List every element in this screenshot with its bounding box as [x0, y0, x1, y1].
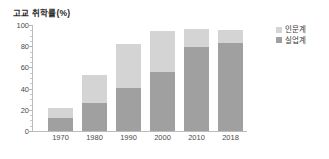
y-tick-minor-5 [30, 126, 33, 127]
y-tick-minor-45 [30, 83, 33, 84]
legend-item-vocational[interactable]: 실업계 [276, 37, 328, 45]
x-axis-line [32, 131, 247, 132]
bar-segment-vocational-1990[interactable] [116, 88, 141, 131]
y-tick-label-60: 60 [3, 64, 29, 72]
legend-swatch-academic-icon [276, 27, 282, 33]
y-tick-major-80 [28, 46, 32, 47]
x-tick-label-2010: 2010 [180, 134, 214, 142]
y-tick-minor-15 [30, 115, 33, 116]
y-tick-major-20 [28, 110, 32, 111]
legend-item-academic[interactable]: 인문계 [276, 26, 328, 34]
bar-segment-academic-1990[interactable] [116, 44, 141, 87]
y-tick-minor-70 [30, 57, 33, 58]
y-tick-major-40 [28, 89, 32, 90]
y-tick-label-20: 20 [3, 107, 29, 115]
bar-stack-2018[interactable] [218, 30, 243, 131]
bar-stack-2000[interactable] [150, 31, 175, 131]
y-tick-minor-85 [30, 41, 33, 42]
x-tick-label-1980: 1980 [78, 134, 112, 142]
y-tick-minor-50 [30, 78, 33, 79]
x-tick-label-2018: 2018 [214, 134, 248, 142]
y-axis-labels: 100 80 60 40 20 0 [0, 25, 29, 132]
legend-swatch-vocational-icon [276, 37, 282, 43]
plot-area [32, 25, 246, 131]
bar-segment-academic-2018[interactable] [218, 30, 243, 43]
bar-segment-academic-1970[interactable] [48, 108, 73, 119]
y-tick-label-40: 40 [3, 86, 29, 94]
y-tick-minor-55 [30, 73, 33, 74]
legend-label-academic: 인문계 [285, 26, 306, 34]
y-tick-label-80: 80 [3, 43, 29, 51]
bar-stack-1980[interactable] [82, 75, 107, 131]
x-axis-labels: 1970 1980 1990 2000 2010 2018 [32, 134, 247, 148]
bar-segment-vocational-2018[interactable] [218, 43, 243, 131]
x-tick-label-1970: 1970 [44, 134, 78, 142]
y-tick-minor-10 [30, 120, 33, 121]
y-tick-minor-75 [30, 52, 33, 53]
chart-legend: 인문계 실업계 [276, 26, 328, 47]
x-tick-label-2000: 2000 [146, 134, 180, 142]
chart-figure: 고교 취학률(%) 100 80 60 40 20 0 [0, 0, 329, 159]
y-tick-minor-65 [30, 62, 33, 63]
bar-segment-vocational-2010[interactable] [184, 47, 209, 131]
y-tick-minor-30 [30, 99, 33, 100]
bar-segment-academic-2010[interactable] [184, 29, 209, 47]
bar-segment-academic-1980[interactable] [82, 75, 107, 104]
y-tick-minor-95 [30, 30, 33, 31]
y-tick-major-60 [28, 67, 32, 68]
x-tick-label-1990: 1990 [112, 134, 146, 142]
y-tick-minor-25 [30, 105, 33, 106]
y-tick-major-0 [28, 131, 32, 132]
bar-segment-vocational-2000[interactable] [150, 72, 175, 131]
bar-stack-1990[interactable] [116, 44, 141, 131]
bar-segment-vocational-1970[interactable] [48, 118, 73, 131]
y-tick-minor-35 [30, 94, 33, 95]
y-tick-minor-90 [30, 36, 33, 37]
y-tick-label-0: 0 [3, 128, 29, 136]
chart-title: 고교 취학률(%) [13, 6, 70, 18]
bar-stack-1970[interactable] [48, 108, 73, 131]
bar-segment-vocational-1980[interactable] [82, 103, 107, 131]
bar-stack-2010[interactable] [184, 29, 209, 131]
legend-label-vocational: 실업계 [285, 37, 306, 45]
bar-segment-academic-2000[interactable] [150, 31, 175, 71]
y-tick-major-100 [28, 25, 32, 26]
y-tick-label-100: 100 [3, 22, 29, 30]
